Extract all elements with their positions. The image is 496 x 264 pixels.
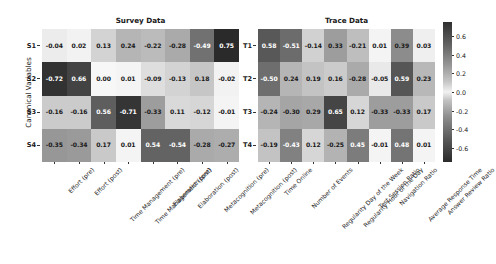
heatmap-cell: 0.16 [324,62,346,95]
row-label-text: S2 [27,75,36,83]
x-tick [177,162,178,164]
x-tick [54,162,55,164]
heatmap-cell: 0.65 [324,96,346,129]
column-label: Effort (pre) [67,166,96,195]
heatmap-cell: -0.21 [347,29,369,62]
heatmap-cell: -0.16 [42,96,67,129]
heatmap-cell: -0.49 [190,29,215,62]
colorbar-tick [452,111,454,112]
colorbar-tick-label: 0.2 [456,70,466,77]
x-tick [402,162,403,164]
heatmap-cell: -0.34 [67,129,92,162]
heatmap-cell: 0.24 [116,29,141,62]
heatmap-cell: 0.01 [369,29,391,62]
colorbar-tick-label: -0.4 [456,126,468,133]
colorbar-tick [452,129,454,130]
colorbar-tick [452,73,454,74]
x-tick [313,162,314,164]
heatmap-cell: 0.01 [413,129,435,162]
heatmap-cell: 0.75 [214,29,239,62]
heatmap-cell: 0.39 [391,29,413,62]
colorbar-gradient [443,22,452,162]
heatmap-cell: -0.22 [141,29,166,62]
x-tick [291,162,292,164]
colorbar-tick-label: -0.6 [456,145,468,152]
heatmap-cell: 0.24 [280,62,302,95]
row-label-s1: S1 [0,29,40,62]
row-label-s2: S2 [0,62,40,95]
heatmap-cell: 0.18 [190,62,215,95]
heatmap-cell: 0.66 [67,62,92,95]
row-label-text: T1 [243,42,252,50]
heatmap-cell: -0.14 [302,29,324,62]
heatmap-cell: -0.19 [258,129,280,162]
heatmap-cell: -0.24 [258,96,280,129]
x-tick [153,162,154,164]
x-tick [104,162,105,164]
heatmap-cell: 0.48 [391,129,413,162]
heatmap-cell: -0.02 [214,62,239,95]
colorbar-tick [452,36,454,37]
heatmap-cell: -0.01 [369,129,391,162]
heatmap-cell: 0.02 [67,29,92,62]
x-tick [202,162,203,164]
heatmap-cell: 0.56 [91,96,116,129]
row-label-text: S3 [27,108,36,116]
heatmap-cell: -0.28 [347,62,369,95]
panel-title-survey: Survey Data [42,16,239,25]
heatmap-cell: 0.58 [258,29,280,62]
column-label: Effort (post) [93,166,124,197]
column-labels-survey: Effort (pre)Effort (post)Time Management… [42,162,239,262]
heatmap-cell: -0.12 [190,96,215,129]
row-label-text: T3 [243,108,252,116]
heatmap-cell: -0.28 [190,129,215,162]
panel-title-trace: Trace Data [258,16,435,25]
heatmap-cell: -0.27 [214,129,239,162]
heatmap-cell: 0.54 [141,129,166,162]
x-tick [128,162,129,164]
heatmap-cell: -0.13 [165,62,190,95]
heatmap-cell: -0.05 [369,62,391,95]
heatmap-cell: -0.43 [280,129,302,162]
row-label-text: T4 [243,141,252,149]
heatmap-cell: -0.25 [324,129,346,162]
heatmap-cell: -0.33 [141,96,166,129]
colorbar-tick-label: 0.0 [456,89,466,96]
colorbar-tick [452,55,454,56]
heatmap-cell: 0.13 [91,29,116,62]
heatmap-cell: -0.04 [42,29,67,62]
column-label: Time Management (pre) [128,166,185,223]
heatmap-cell: 0.17 [413,96,435,129]
heatmap-cell: -0.16 [67,96,92,129]
colorbar: 0.60.40.20.0-0.2-0.4-0.6 [443,22,452,162]
row-label-s3: S3 [0,96,40,129]
colorbar-tick [452,148,454,149]
colorbar-tick-label: -0.2 [456,107,468,114]
heatmap-cell: -0.35 [42,129,67,162]
x-tick [335,162,336,164]
heatmap-cell: 0.01 [116,129,141,162]
x-tick [380,162,381,164]
heatmap-cell: -0.09 [141,62,166,95]
heatmap-cell: -0.01 [214,96,239,129]
heatmap-cell: -0.28 [165,29,190,62]
column-labels-trace: Time OnlineNumber of EventsRegularity Da… [258,162,435,262]
heatmap-cell: -0.50 [258,62,280,95]
heatmap-cell: 0.12 [302,129,324,162]
column-label: Number of Events [310,166,354,210]
row-label-s4: S4 [0,129,40,162]
heatmap-cell: 0.00 [91,62,116,95]
colorbar-tick [452,92,454,93]
x-tick [79,162,80,164]
colorbar-tick-label: 0.4 [456,51,466,58]
heatmap-cell: 0.23 [413,62,435,95]
x-tick [269,162,270,164]
heatmap-grid-trace: 0.58-0.51-0.140.33-0.210.010.390.03-0.50… [258,29,435,162]
heatmap-cell: -0.51 [280,29,302,62]
heatmap-cell: 0.01 [116,62,141,95]
heatmap-cell: 0.19 [302,62,324,95]
heatmap-grid-survey: -0.040.020.130.24-0.22-0.28-0.490.75-0.7… [42,29,239,162]
heatmap-cell: 0.12 [347,96,369,129]
heatmap-cell: 0.45 [347,129,369,162]
